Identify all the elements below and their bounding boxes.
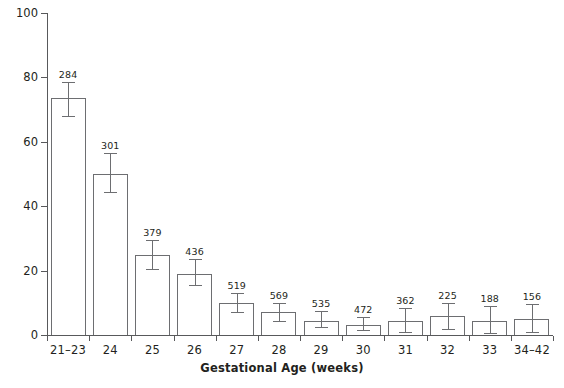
x-tick-mark	[174, 336, 175, 341]
bar-count-label: 379	[132, 227, 172, 238]
y-tick-label: 60	[0, 135, 47, 149]
y-tick-label: 100	[0, 6, 47, 20]
y-tick-label: 0	[0, 328, 47, 342]
error-bar-cap-upper	[399, 308, 412, 309]
error-bar-line	[321, 311, 322, 327]
bar-count-label: 225	[428, 290, 468, 301]
error-bar-cap-upper	[231, 293, 244, 294]
error-bar-cap-lower	[526, 332, 539, 333]
x-axis-title: Gestational Age (weeks)	[0, 361, 564, 375]
error-bar-cap-lower	[315, 327, 328, 328]
error-bar-cap-upper	[189, 259, 202, 260]
x-tick-mark	[89, 336, 90, 341]
bar-count-label: 156	[512, 291, 552, 302]
error-bar-cap-upper	[273, 303, 286, 304]
error-bar-cap-lower	[146, 269, 159, 270]
x-tick-mark	[258, 336, 259, 341]
error-bar-line	[110, 153, 111, 192]
error-bar-cap-upper	[357, 317, 370, 318]
y-axis-title: % Died	[0, 149, 2, 195]
x-tick-label: 34–42	[504, 343, 560, 357]
error-bar-line	[363, 317, 364, 330]
bar	[51, 98, 86, 335]
bar	[93, 174, 128, 335]
error-bar-cap-lower	[442, 329, 455, 330]
error-bar-line	[152, 240, 153, 269]
y-tick-label: 40	[0, 199, 47, 213]
error-bar-line	[279, 303, 280, 321]
error-bar-cap-lower	[273, 321, 286, 322]
error-bar-cap-upper	[526, 304, 539, 305]
error-bar-cap-lower	[104, 192, 117, 193]
bar-count-label: 436	[175, 246, 215, 257]
x-tick-mark	[131, 336, 132, 341]
error-bar-line	[195, 259, 196, 285]
x-tick-mark	[511, 336, 512, 341]
error-bar-line	[237, 293, 238, 312]
error-bar-line	[405, 308, 406, 332]
y-axis-line	[47, 13, 48, 336]
error-bar-cap-lower	[189, 285, 202, 286]
error-bar-cap-lower	[231, 312, 244, 313]
x-tick-mark	[300, 336, 301, 341]
bar-count-label: 362	[385, 295, 425, 306]
error-bar-line	[448, 303, 449, 329]
x-tick-mark	[427, 336, 428, 341]
error-bar-cap-upper	[62, 82, 75, 83]
error-bar-cap-lower	[484, 333, 497, 334]
y-tick-label: 80	[0, 70, 47, 84]
bar-count-label: 472	[343, 304, 383, 315]
bar-count-label: 569	[259, 290, 299, 301]
bar-count-label: 188	[470, 293, 510, 304]
bar-count-label: 301	[90, 140, 130, 151]
bar-count-label: 284	[48, 69, 88, 80]
bar-chart-figure: % Died 020406080100 28430137943651956953…	[0, 0, 564, 388]
error-bar-line	[490, 306, 491, 333]
error-bar-cap-upper	[315, 311, 328, 312]
x-tick-mark	[553, 336, 554, 341]
x-tick-mark	[47, 336, 48, 341]
bar-count-label: 535	[301, 298, 341, 309]
error-bar-cap-upper	[146, 240, 159, 241]
error-bar-cap-upper	[104, 153, 117, 154]
x-tick-mark	[384, 336, 385, 341]
error-bar-line	[68, 82, 69, 116]
error-bar-cap-lower	[357, 330, 370, 331]
error-bar-cap-upper	[442, 303, 455, 304]
error-bar-cap-lower	[399, 332, 412, 333]
error-bar-cap-upper	[484, 306, 497, 307]
x-tick-mark	[216, 336, 217, 341]
error-bar-line	[532, 304, 533, 331]
x-tick-mark	[342, 336, 343, 341]
bar-count-label: 519	[217, 280, 257, 291]
y-tick-label: 20	[0, 264, 47, 278]
x-tick-mark	[469, 336, 470, 341]
error-bar-cap-lower	[62, 116, 75, 117]
